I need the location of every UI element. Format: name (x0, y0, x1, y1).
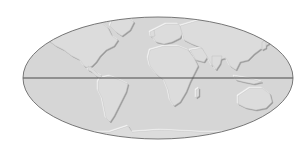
world-map (0, 0, 302, 150)
madagascar (196, 88, 199, 98)
new-zealand (280, 104, 285, 114)
world-map-svg (0, 0, 302, 150)
